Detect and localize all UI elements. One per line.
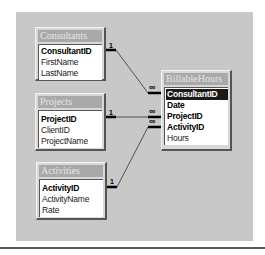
field-clientid[interactable]: ClientID xyxy=(40,125,102,136)
field-rate[interactable]: Rate xyxy=(41,205,103,216)
many-label: ∞ xyxy=(149,118,154,125)
field-activityid[interactable]: ActivityID xyxy=(41,183,103,194)
field-hours[interactable]: Hours xyxy=(166,133,228,144)
field-activityid[interactable]: ActivityID xyxy=(166,122,228,133)
table-title[interactable]: Projects xyxy=(38,96,102,108)
field-list: ConsultantID Date ProjectID ActivityID H… xyxy=(164,87,228,145)
one-label: 1 xyxy=(110,178,114,185)
field-projectid[interactable]: ProjectID xyxy=(40,114,102,125)
field-date[interactable]: Date xyxy=(166,100,228,111)
divider xyxy=(0,247,265,249)
field-list: ActivityID ActivityName Rate xyxy=(39,179,103,217)
field-consultantid[interactable]: ConsultantID xyxy=(40,46,102,57)
field-projectname[interactable]: ProjectName xyxy=(40,136,102,147)
table-activities[interactable]: Activities ActivityID ActivityName Rate xyxy=(36,162,107,220)
field-list: ProjectID ClientID ProjectName xyxy=(38,110,102,148)
field-lastname[interactable]: LastName xyxy=(40,68,102,79)
field-consultantid[interactable]: ConsultantID xyxy=(166,89,228,100)
table-billablehours[interactable]: BillableHours ConsultantID Date ProjectI… xyxy=(161,70,232,151)
many-label: ∞ xyxy=(149,84,154,91)
table-projects[interactable]: Projects ProjectID ClientID ProjectName xyxy=(35,93,106,151)
field-firstname[interactable]: FirstName xyxy=(40,57,102,68)
many-label: ∞ xyxy=(149,108,154,115)
table-title[interactable]: BillableHours xyxy=(164,73,228,85)
field-projectid[interactable]: ProjectID xyxy=(166,111,228,122)
table-consultants[interactable]: Consultants ConsultantID FirstName LastN… xyxy=(35,27,106,81)
field-activityname[interactable]: ActivityName xyxy=(41,194,103,205)
one-label: 1 xyxy=(109,42,113,49)
one-label: 1 xyxy=(109,109,113,116)
table-title[interactable]: Activities xyxy=(39,165,103,177)
table-title[interactable]: Consultants xyxy=(38,30,102,42)
field-list: ConsultantID FirstName LastName xyxy=(38,44,102,80)
